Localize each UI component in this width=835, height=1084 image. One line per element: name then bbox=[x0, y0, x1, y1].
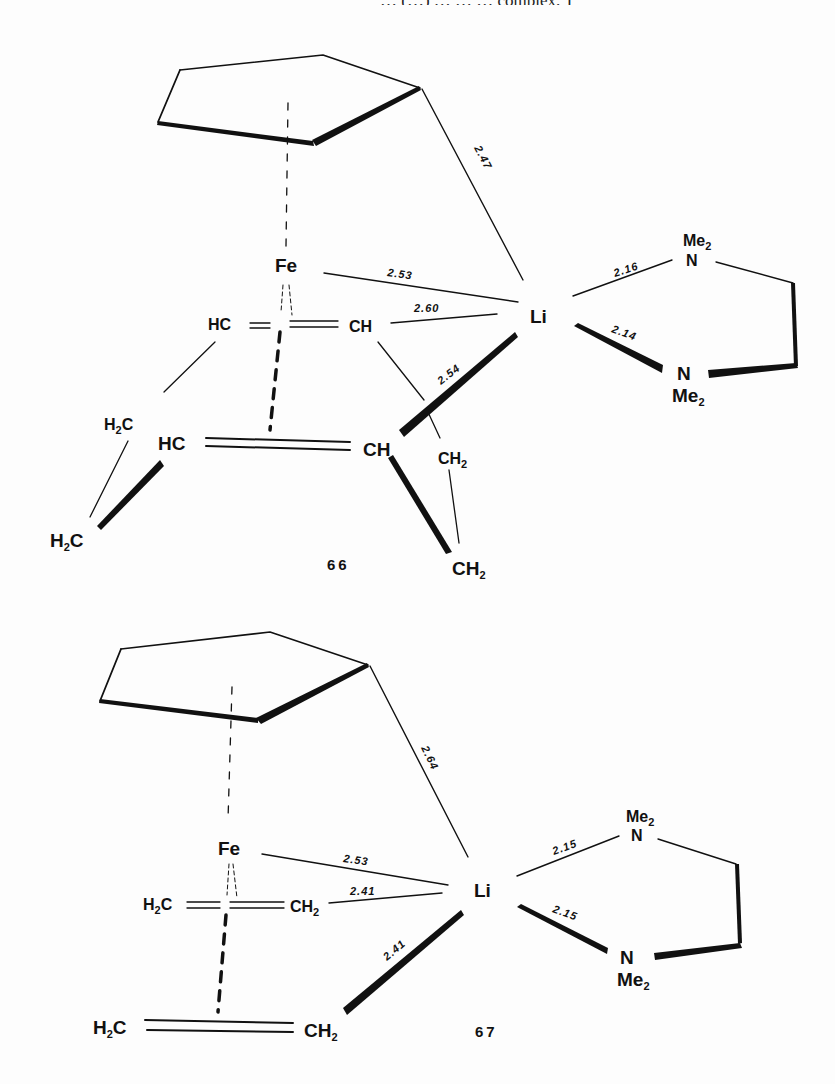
cp-fe-dash-66 bbox=[286, 103, 288, 246]
cp-fe-dash-67 bbox=[228, 687, 232, 820]
tmeda-ligand-66: Me2 N 2.16 2.14 N Me2 bbox=[573, 232, 798, 408]
lower-ch2-66: CH2 bbox=[452, 558, 486, 581]
li-atom-66: Li bbox=[530, 306, 547, 327]
li-atom-67: Li bbox=[474, 880, 491, 901]
fe-atom-67: Fe bbox=[218, 838, 240, 859]
upper-hc-66: HC bbox=[208, 316, 232, 333]
distance-ch2-li-67: 2.41 bbox=[349, 885, 375, 897]
structure-66: 2.47 Fe 2.53 Li HC CH 2.60 bbox=[50, 55, 798, 581]
svg-text:Me2: Me2 bbox=[672, 385, 705, 408]
right-ch2-upper-66: CH2 bbox=[438, 450, 467, 470]
lower-ch2-li-wedge-67 bbox=[343, 910, 464, 1015]
upper-h2c-67: H2C bbox=[143, 896, 173, 916]
svg-text:Me2: Me2 bbox=[617, 969, 650, 992]
lower-hc-66: HC bbox=[158, 433, 186, 454]
lower-h2c-66: H2C bbox=[50, 530, 84, 553]
fe-atom-66: Fe bbox=[275, 255, 297, 276]
paper-page: … (…) … … … complex. T 2.47 Fe 2.53 Li bbox=[0, 0, 835, 1084]
fe-li-bond-66 bbox=[324, 273, 518, 302]
cp-li-bond-66 bbox=[422, 89, 523, 280]
lower-ch2-67: CH2 bbox=[304, 1020, 338, 1043]
n-top-67: N bbox=[631, 827, 643, 844]
distance-ch-li-66: 2.60 bbox=[413, 302, 439, 314]
fe-lower-ethylene-dash-67 bbox=[218, 915, 226, 1012]
compound-number-67: 67 bbox=[475, 1023, 498, 1040]
structure-figure: 2.47 Fe 2.53 Li HC CH 2.60 bbox=[0, 0, 835, 1084]
cyclopentadienyl-ring-67 bbox=[99, 632, 369, 724]
n-top-66: N bbox=[686, 252, 698, 269]
compound-number-66: 66 bbox=[327, 556, 350, 573]
ch2-li-bond-67 bbox=[329, 893, 442, 903]
lower-h2c-67: H2C bbox=[93, 1017, 127, 1040]
tmeda-ligand-67: Me2 N 2.15 2.15 N Me2 bbox=[517, 808, 742, 992]
fe-lower-diene-dash-66 bbox=[270, 332, 280, 430]
lower-ch-li-wedge-66 bbox=[399, 332, 518, 437]
lower-ch-66: CH bbox=[363, 439, 390, 460]
upper-h2c-66: H2C bbox=[104, 416, 134, 436]
svg-text:Me2: Me2 bbox=[626, 808, 654, 828]
n-bottom-66: N bbox=[677, 363, 691, 384]
upper-ch2-67: CH2 bbox=[290, 898, 319, 918]
svg-text:Me2: Me2 bbox=[683, 232, 711, 252]
distance-li-n-bottom-66: 2.14 bbox=[609, 322, 638, 342]
distance-fe-li-66: 2.53 bbox=[386, 266, 414, 282]
upper-ch-66: CH bbox=[349, 318, 372, 335]
structure-67: 2.64 Fe 2.53 Li H2C CH2 2.41 2.41 H2C bbox=[93, 632, 742, 1043]
distance-fe-li-67: 2.53 bbox=[342, 852, 370, 868]
distance-li-n-bottom-67: 2.15 bbox=[550, 902, 579, 922]
cp-li-bond-67 bbox=[370, 666, 468, 857]
cyclopentadienyl-ring-66 bbox=[157, 55, 421, 146]
distance-cp-li-66: 2.47 bbox=[472, 142, 495, 171]
ch-li-bond-66 bbox=[391, 314, 497, 323]
n-bottom-67: N bbox=[620, 947, 634, 968]
